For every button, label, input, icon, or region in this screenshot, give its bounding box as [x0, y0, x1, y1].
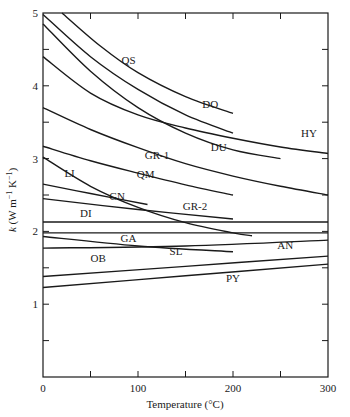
x-tick-label: 100: [130, 382, 147, 394]
y-axis-close: ): [6, 168, 19, 172]
curve-gn: [43, 184, 148, 204]
label-an: AN: [277, 239, 293, 251]
y-tick-label: 2: [33, 225, 39, 237]
x-tick-label: 200: [225, 382, 242, 394]
curve-sl: [43, 236, 233, 251]
x-axis-title: Temperature (°C): [146, 398, 224, 411]
label-do: DO: [202, 98, 218, 110]
label-ga: GA: [121, 232, 137, 244]
label-py: PY: [226, 272, 240, 284]
label-sl: SL: [170, 245, 183, 257]
label-li: LI: [64, 167, 75, 179]
curve-gr-1: [43, 108, 328, 195]
label-du: DU: [211, 141, 227, 153]
label-gr-2: GR-2: [183, 200, 207, 212]
y-tick-label: 4: [33, 80, 39, 92]
y-tick-label: 3: [33, 153, 39, 165]
thermal-conductivity-chart: 010020030012345 QSDODUHYGR-1QMLIGNGR-2DI…: [0, 0, 350, 417]
curve-py: [43, 264, 328, 287]
curve-ob: [43, 256, 328, 276]
label-qm: QM: [137, 168, 155, 180]
y-axis-unit-2: K: [6, 180, 18, 191]
y-axis-title: k (W m−1 K−1): [5, 168, 19, 233]
label-ob: OB: [90, 252, 105, 264]
y-tick-label: 5: [33, 7, 39, 19]
y-axis-sup-2: −1: [5, 172, 14, 181]
x-tick-label: 300: [320, 382, 337, 394]
x-tick-label: 0: [40, 382, 46, 394]
label-qs: QS: [121, 54, 135, 66]
label-hy: HY: [301, 127, 317, 139]
y-axis-unit-1: (W m: [6, 199, 19, 227]
y-axis-sup-1: −1: [5, 191, 14, 200]
label-di: DI: [80, 207, 92, 219]
label-gr-1: GR-1: [145, 149, 169, 161]
label-gn: GN: [109, 190, 125, 202]
curve-hy: [43, 57, 328, 154]
y-tick-label: 1: [33, 298, 39, 310]
curve-du: [43, 24, 281, 159]
